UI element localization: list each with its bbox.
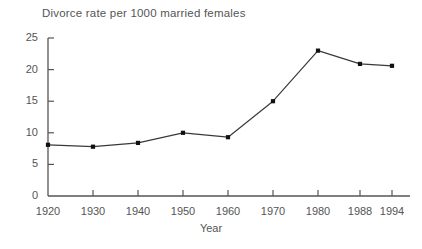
x-tick-label: 1994 — [380, 206, 404, 217]
data-point-marker — [181, 131, 185, 135]
data-point-marker — [91, 145, 95, 149]
axes — [48, 38, 410, 196]
data-point-marker — [136, 141, 140, 145]
data-point-marker — [316, 49, 320, 53]
data-point-marker — [271, 99, 275, 103]
y-tick-label: 25 — [12, 32, 38, 43]
x-tick-label: 1950 — [171, 206, 195, 217]
data-point-marker — [358, 62, 362, 66]
x-tick-label: 1988 — [348, 206, 372, 217]
y-tick-label: 0 — [12, 190, 38, 201]
y-tick-label: 10 — [12, 127, 38, 138]
divorce-rate-line-chart: Divorce rate per 1000 married females 05… — [0, 0, 422, 249]
x-tick-label: 1960 — [216, 206, 240, 217]
x-axis-label: Year — [0, 222, 422, 234]
data-point-marker — [390, 64, 394, 68]
data-point-markers — [46, 49, 394, 149]
y-tick-label: 20 — [12, 64, 38, 75]
x-tick-label: 1930 — [81, 206, 105, 217]
y-tick-label: 15 — [12, 95, 38, 106]
x-tick-label: 1920 — [36, 206, 60, 217]
x-tick-label: 1970 — [261, 206, 285, 217]
data-series-line — [48, 51, 392, 147]
x-tick-label: 1940 — [126, 206, 150, 217]
data-point-marker — [226, 135, 230, 139]
data-point-marker — [46, 143, 50, 147]
x-tick-marks — [93, 190, 392, 196]
x-tick-label: 1980 — [306, 206, 330, 217]
y-tick-label: 5 — [12, 158, 38, 169]
